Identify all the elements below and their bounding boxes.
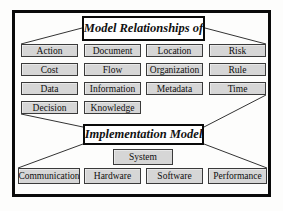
box-rule: Rule	[209, 63, 266, 76]
box-metadata: Metadata	[146, 82, 203, 95]
box-knowledge: Knowledge	[84, 101, 141, 114]
box-document: Document	[84, 44, 141, 57]
diagram-figure: Model Relationships of Action Document L…	[0, 0, 283, 211]
box-communication: Communication	[18, 168, 80, 184]
box-data: Data	[21, 82, 78, 95]
box-information: Information	[84, 82, 141, 95]
box-hardware: Hardware	[84, 168, 141, 184]
box-action: Action	[21, 44, 78, 57]
box-system: System	[113, 149, 173, 165]
box-cost: Cost	[21, 63, 78, 76]
box-time: Time	[209, 82, 266, 95]
box-organization: Organization	[146, 63, 203, 76]
box-risk: Risk	[209, 44, 266, 57]
box-performance: Performance	[208, 168, 267, 184]
box-flow: Flow	[84, 63, 141, 76]
box-location: Location	[146, 44, 203, 57]
box-decision: Decision	[21, 101, 78, 114]
bottom-title-box: Implementation Model	[83, 124, 204, 145]
box-software: Software	[146, 168, 203, 184]
top-title-box: Model Relationships of	[82, 16, 205, 41]
